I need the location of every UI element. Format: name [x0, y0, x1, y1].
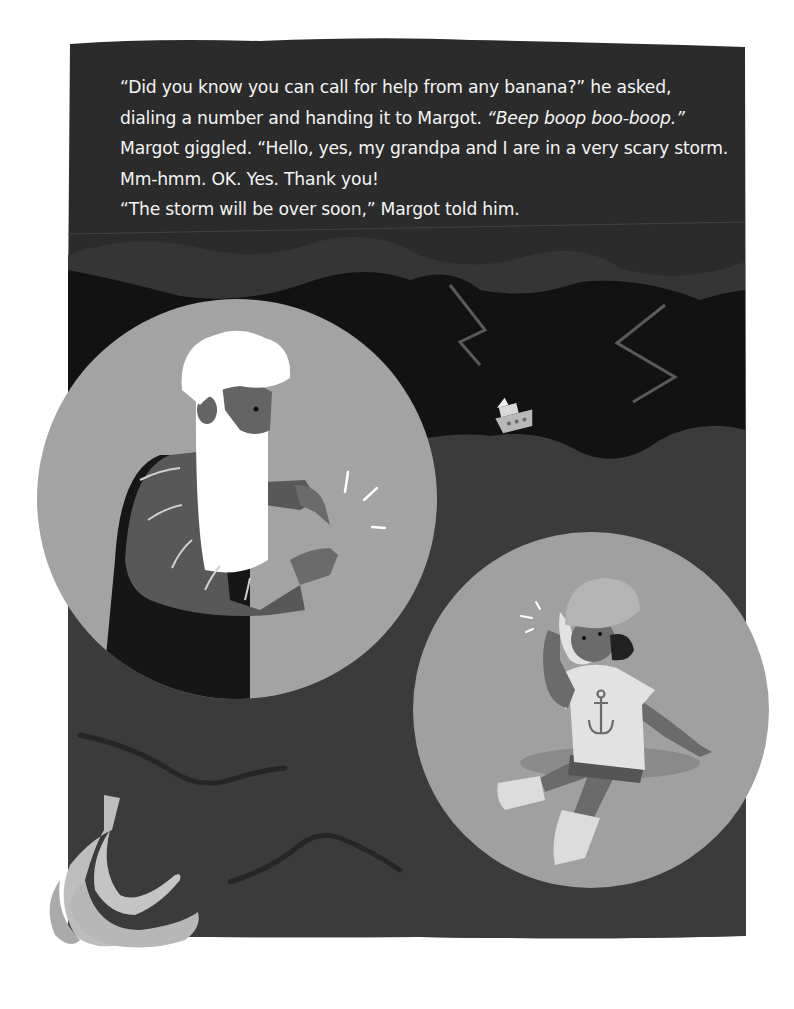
story-text: “Did you know you can call for help from… [120, 72, 740, 225]
story-line-2: dialing a number and handing it to Margo… [120, 103, 740, 134]
story-line-5: “The storm will be over soon,” Margot to… [120, 194, 740, 225]
story-line-4: Mm-hmm. OK. Yes. Thank you! [120, 164, 740, 195]
story-line-2-italic: “Beep boop boo-boop.” [487, 108, 685, 128]
story-line-3: Margot giggled. “Hello, yes, my grandpa … [120, 133, 740, 164]
book-page: “Did you know you can call for help from… [0, 0, 794, 1009]
story-line-1: “Did you know you can call for help from… [120, 72, 740, 103]
story-line-2-text: dialing a number and handing it to Margo… [120, 108, 487, 128]
margot-bubble [413, 532, 769, 888]
